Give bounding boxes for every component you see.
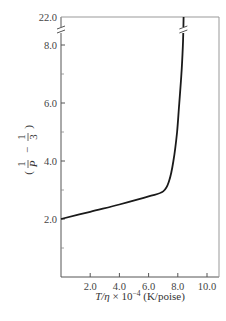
y-axis-title-paren-left: ( (22, 171, 35, 175)
y-tick-label: 2.0 (44, 214, 57, 225)
x-axis-title-symbol: T/η (95, 290, 110, 302)
y-axis-title-frac2-den: 3 (27, 134, 39, 140)
y-tick-label: 22.0 (39, 12, 57, 23)
y-axis-title-frac1-num: 1 (15, 161, 27, 167)
chart: 2.04.06.08.022.0 2.04.06.08.010.0 T/η × … (0, 0, 226, 321)
y-axis-title-frac2-num: 1 (15, 134, 27, 140)
y-axis-title-frac1-den: P (27, 160, 39, 168)
y-tick-label: 4.0 (44, 156, 57, 167)
plot-frame (61, 17, 219, 277)
x-tick-label: 10.0 (198, 281, 216, 292)
y-axis-title-paren-right: ) (22, 125, 35, 129)
x-axis-title: T/η × 10−4 (K/poise) (95, 289, 185, 303)
y-axis-title: ( 1 P − 1 3 ) (15, 125, 39, 175)
data-curve (61, 17, 184, 219)
y-tick-label: 8.0 (44, 40, 57, 51)
x-axis-title-multiplier: × 10 (110, 290, 133, 302)
y-tick-label: 6.0 (44, 98, 57, 109)
axis-break-marks (56, 26, 188, 33)
x-axis-title-unit: (K/poise) (141, 290, 186, 303)
y-axis-title-minus: − (21, 147, 33, 153)
